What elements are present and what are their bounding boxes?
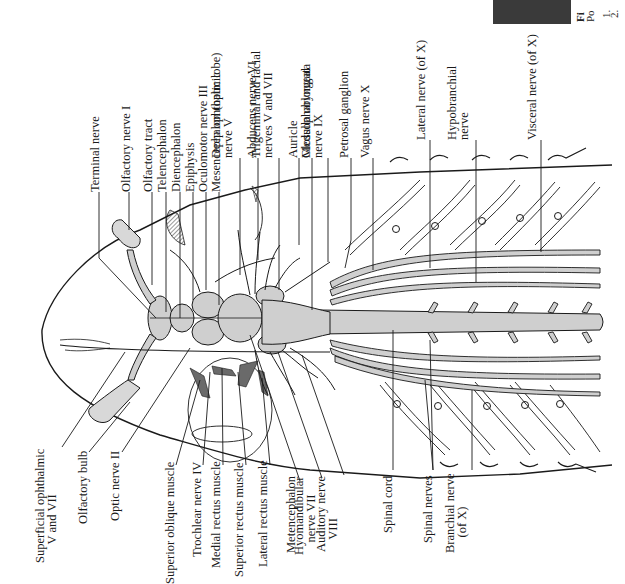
label-epiphysis: Epiphysis: [184, 143, 196, 192]
label-glossopharyngeal: Glossopharyngeal nerve IX: [300, 68, 324, 158]
cranial-nerves-lower: [255, 348, 335, 395]
corner-text-2: Po: [585, 10, 595, 22]
label-diencephalon: Diencephalon: [170, 123, 182, 192]
label-olfactory-tract: Olfactory tract: [142, 119, 154, 192]
label-lateral-rectus-muscle: Lateral rectus muscle: [257, 460, 269, 567]
label-optic-nerve-ii: Optic nerve II: [109, 451, 121, 521]
label-telencephalon: Telencephalon: [156, 119, 168, 192]
label-hypobranchial-nerve: Hypobranchial nerve: [446, 66, 470, 140]
corner-text-4: 2.: [609, 10, 619, 18]
label-spinal-cord: Spinal cord: [382, 476, 394, 533]
gill-arches-top: [390, 148, 586, 162]
label-visceral-nerve-x: Visceral nerve (of X): [526, 34, 538, 140]
label-trigeminal-facial: Trigeminal and facial nerves V and VII: [250, 51, 274, 158]
label-petrosal-ganglion: Petrosal ganglion: [338, 71, 350, 158]
label-spinal-nerves: Spinal nerves: [422, 475, 434, 543]
label-superior-oblique-muscle: Superior oblique muscle: [164, 462, 176, 584]
label-deep-ophthalmic: Deep ophthalmic nerve V: [210, 72, 234, 158]
label-medial-rectus-muscle: Medial rectus muscle: [210, 461, 222, 568]
label-auditory-nerve-viii: Auditory nerve VIII: [315, 476, 339, 552]
spinal-cord-shape: [320, 310, 603, 334]
label-auricle: Auricle: [287, 121, 299, 158]
orbit-upper-hatch: [166, 210, 185, 245]
label-terminal-nerve: Terminal nerve: [89, 116, 101, 192]
label-superficial-ophthalmic: Superficial ophthalmic V and VII: [34, 449, 58, 563]
label-olfactory-bulb: Olfactory bulb: [77, 451, 89, 524]
cranial-nerves-upper: [170, 230, 330, 295]
label-superior-rectus-muscle: Superior rectus muscle: [233, 462, 245, 577]
branchial-branches-upper: [345, 180, 600, 255]
eye-muscles: [190, 361, 268, 398]
label-lateral-nerve-x: Lateral nerve (of X): [415, 40, 427, 140]
olfactory-sac-upper: [112, 220, 140, 248]
brain: [148, 286, 330, 354]
label-branchial-nerve-x: Branchial nerve (of X): [444, 474, 468, 553]
label-trochlear-nerve-iv: Trochlear nerve IV: [191, 462, 203, 557]
label-olfactory-nerve-i: Olfactory nerve I: [120, 106, 132, 192]
medulla-shape: [262, 300, 330, 344]
label-oculomotor-nerve-iii: Oculomotor nerve III: [197, 85, 209, 192]
gill-arches-bottom: [440, 462, 596, 472]
corner-image-fragment: [493, 0, 571, 24]
label-vagus-nerve-x: Vagus nerve X: [359, 84, 371, 158]
